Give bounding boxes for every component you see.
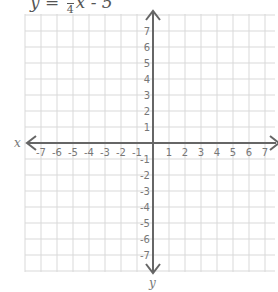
y-tick-label: -2 xyxy=(140,170,150,181)
x-tick-label: 4 xyxy=(214,147,220,158)
y-tick-label: 6 xyxy=(144,42,150,53)
y-axis-label: y xyxy=(148,276,156,290)
y-tick-label: 4 xyxy=(144,74,150,85)
x-tick-label: 7 xyxy=(262,147,268,158)
y-tick-label: -7 xyxy=(140,250,150,261)
y-tick-label: 5 xyxy=(144,58,150,69)
y-tick-label: -1 xyxy=(140,154,150,165)
y-tick-label: 2 xyxy=(144,106,150,117)
x-tick-label: 3 xyxy=(198,147,204,158)
x-tick-label: -7 xyxy=(36,147,46,158)
x-tick-label: 5 xyxy=(230,147,236,158)
x-tick-label: 6 xyxy=(246,147,252,158)
y-tick-label: -4 xyxy=(140,202,150,213)
y-tick-label: -3 xyxy=(140,186,150,197)
x-tick-label: -5 xyxy=(68,147,78,158)
axes xyxy=(27,11,278,273)
x-tick-label: -4 xyxy=(84,147,94,158)
y-tick-label: 7 xyxy=(144,26,150,37)
tick-labels: xy-7-6-5-4-3-2-112345677654321-1-2-3-4-5… xyxy=(14,26,268,290)
coordinate-plane: xy-7-6-5-4-3-2-112345677654321-1-2-3-4-5… xyxy=(0,0,278,292)
x-axis-label: x xyxy=(14,136,21,150)
x-tick-label: -2 xyxy=(116,147,126,158)
x-tick-label: -6 xyxy=(52,147,62,158)
y-tick-label: -5 xyxy=(140,218,150,229)
x-tick-label: -3 xyxy=(100,147,110,158)
y-tick-label: -6 xyxy=(140,234,150,245)
y-tick-label: 1 xyxy=(144,122,150,133)
x-tick-label: 1 xyxy=(166,147,172,158)
x-tick-label: 2 xyxy=(182,147,188,158)
y-tick-label: 3 xyxy=(144,90,150,101)
